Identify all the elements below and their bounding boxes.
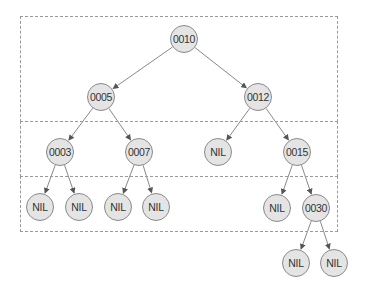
nil-node: NIL xyxy=(204,138,232,166)
nil-node: NIL xyxy=(104,193,132,221)
nil-node: NIL xyxy=(263,194,291,222)
tree-node-0030: 0030 xyxy=(302,194,330,222)
nil-node: NIL xyxy=(282,249,310,277)
tree-node-0015: 0015 xyxy=(283,138,311,166)
nil-node: NIL xyxy=(142,193,170,221)
tree-node-0012: 0012 xyxy=(244,83,272,111)
nil-node: NIL xyxy=(65,193,93,221)
tree-node-0007: 0007 xyxy=(125,138,153,166)
nil-node: NIL xyxy=(26,193,54,221)
tree-node-0003: 0003 xyxy=(46,138,74,166)
tree-diagram: 00100005001200030007NIL0015NILNILNILNILN… xyxy=(0,0,370,294)
tree-node-0010: 0010 xyxy=(170,25,198,53)
nil-node: NIL xyxy=(320,249,348,277)
tree-node-0005: 0005 xyxy=(87,83,115,111)
